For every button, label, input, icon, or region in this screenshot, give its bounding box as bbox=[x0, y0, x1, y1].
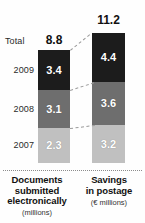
caption-line-2: in postage bbox=[73, 186, 145, 197]
year-label-2008: 2008 bbox=[2, 104, 34, 114]
connector-line-2009 bbox=[70, 34, 90, 51]
caption-line-3: electronically bbox=[0, 196, 74, 207]
caption-unit: (millions) bbox=[0, 208, 74, 219]
connector-line-2008 bbox=[70, 82, 94, 91]
bar-segment-value: 4.4 bbox=[101, 52, 116, 63]
bar-segment-documents-2008: 3.1 bbox=[38, 90, 70, 128]
caption-unit: (€ millions) bbox=[73, 198, 145, 209]
bar-segment-value: 3.4 bbox=[46, 65, 61, 76]
footer-divider bbox=[3, 170, 142, 171]
year-label-2007: 2007 bbox=[2, 140, 34, 150]
year-label-2009: 2009 bbox=[2, 65, 34, 75]
total-value-savings: 11.2 bbox=[92, 13, 125, 27]
bar-segment-value: 2.3 bbox=[46, 140, 61, 151]
caption-line-1: Documents bbox=[0, 175, 74, 186]
bar-savings-in-postage: 4.4 3.6 3.2 bbox=[92, 33, 125, 163]
bar-segment-value: 3.6 bbox=[101, 98, 116, 109]
bar-segment-value: 3.2 bbox=[101, 139, 116, 150]
caption-savings-in-postage: Savings in postage (€ millions) bbox=[73, 175, 145, 208]
bar-segment-savings-2007: 3.2 bbox=[92, 125, 125, 163]
caption-line-1: Savings bbox=[73, 175, 145, 186]
bar-segment-savings-2009: 4.4 bbox=[92, 33, 125, 82]
total-value-documents: 8.8 bbox=[38, 33, 70, 47]
stacked-bar-chart: Total 8.8 11.2 2009 2008 2007 3.4 3.1 2.… bbox=[0, 0, 145, 223]
bar-segment-savings-2008: 3.6 bbox=[92, 82, 125, 125]
bar-documents-submitted: 3.4 3.1 2.3 bbox=[38, 50, 70, 163]
bar-segment-documents-2009: 3.4 bbox=[38, 50, 70, 90]
bar-segment-documents-2007: 2.3 bbox=[38, 128, 70, 163]
total-row-label: Total bbox=[5, 36, 25, 46]
bar-segment-value: 3.1 bbox=[46, 104, 61, 115]
caption-documents-submitted: Documents submitted electronically (mill… bbox=[0, 175, 74, 219]
